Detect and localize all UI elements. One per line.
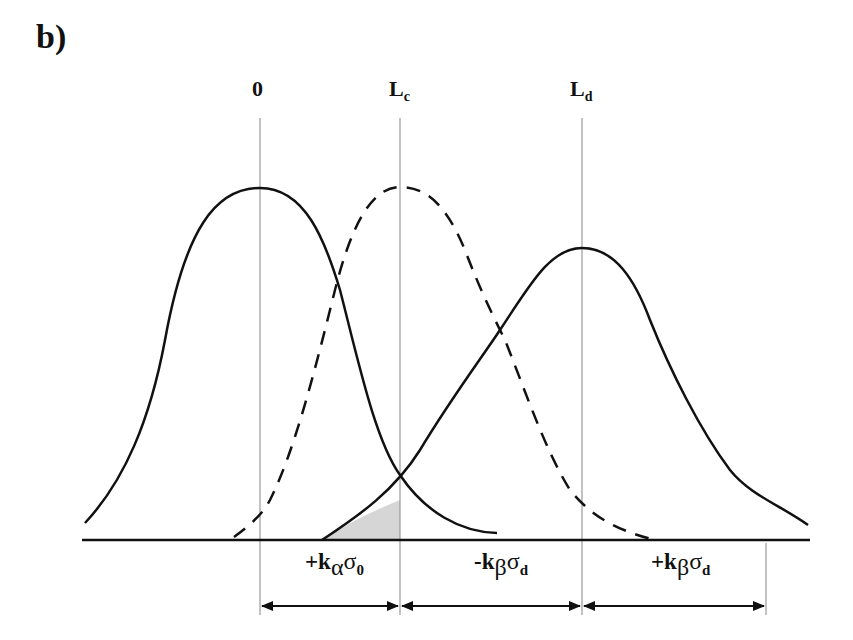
sigma-subscript: d: [520, 562, 528, 578]
beta-subscript: β: [494, 554, 506, 580]
sign: +: [651, 549, 664, 574]
sign: +: [305, 549, 318, 574]
k-symbol: k: [482, 549, 495, 574]
alpha-subscript: α: [331, 554, 344, 580]
distribution-plot: [0, 0, 853, 640]
sigma-symbol: σ: [689, 548, 702, 574]
k-symbol: k: [664, 549, 677, 574]
sigma-subscript: 0: [356, 562, 364, 578]
shaded-overlap-region: [322, 500, 400, 540]
interval-label-plus-kb-sigmad: +kβσd: [651, 548, 710, 581]
diagram-canvas: b) 0 Lc Ld: [0, 0, 853, 640]
interval-label-ka-sigma0: +kασ0: [305, 548, 364, 581]
detection-limit-curve: [322, 248, 808, 540]
blank-distribution-curve: [85, 188, 497, 533]
sigma-symbol: σ: [507, 548, 520, 574]
critical-level-curve: [234, 187, 655, 540]
sigma-subscript: d: [702, 562, 710, 578]
interval-label-minus-kb-sigmad: -kβσd: [474, 548, 528, 581]
sigma-symbol: σ: [343, 548, 356, 574]
sign: -: [474, 549, 482, 574]
beta-subscript: β: [677, 554, 689, 580]
k-symbol: k: [318, 549, 331, 574]
